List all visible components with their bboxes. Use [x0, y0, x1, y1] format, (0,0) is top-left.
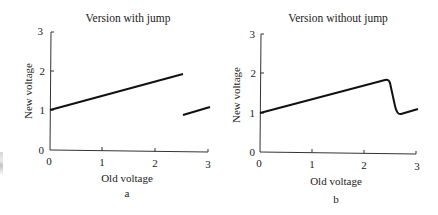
x-tick-0-b: 0 [256, 157, 262, 169]
chart-panel-b: Version without jump 3 2 1 0 0 1 2 3 Old… [218, 0, 438, 215]
chart-panel-a: Version with jump 3 2 1 0 0 1 2 3 Old vo… [0, 0, 220, 215]
x-axis-label-b: Old voltage [310, 175, 362, 187]
y-tick-3-a: 3 [38, 25, 44, 37]
x-tick-1-b: 1 [309, 158, 315, 170]
y-axis-label-b: New voltage [230, 67, 242, 123]
data-line-segment-1-a [50, 74, 183, 110]
x-axis-a [50, 150, 208, 152]
y-tick-1-b: 1 [250, 107, 256, 119]
panel-label-a: a [125, 187, 130, 199]
y-tick-2-b: 2 [251, 67, 257, 79]
y-axis-b [260, 34, 261, 152]
y-tick-3-b: 3 [250, 28, 256, 40]
y-tick-2-a: 2 [40, 65, 46, 77]
x-tick-1-a: 1 [99, 156, 105, 168]
y-tick-0-b: 0 [250, 146, 256, 158]
x-tick-2-a: 2 [152, 157, 158, 169]
panel-label-b: b [333, 193, 339, 205]
y-axis-label-a: New voltage [22, 63, 34, 119]
x-axis-b [260, 152, 416, 154]
x-tick-2-b: 2 [361, 159, 367, 171]
data-line-b [260, 80, 418, 114]
x-axis-label-a: Old voltage [101, 172, 153, 184]
y-axis-a [50, 32, 51, 150]
chart-title-b: Version without jump [288, 12, 388, 25]
y-tick-0-a: 0 [39, 144, 45, 156]
x-tick-3-b: 3 [414, 160, 420, 172]
chart-title-a: Version with jump [86, 12, 171, 25]
x-tick-0-a: 0 [46, 155, 52, 167]
x-tick-3-a: 3 [205, 158, 211, 170]
y-tick-1-a: 1 [40, 104, 46, 116]
data-line-segment-2-a [183, 107, 210, 115]
